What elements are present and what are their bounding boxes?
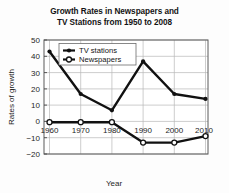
y-axis-title: Rates of growth — [7, 69, 16, 125]
y-tick-label-20: 20 — [31, 85, 40, 94]
x-tick-label-2000: 2000 — [165, 126, 183, 135]
x-tick-label-1970: 1970 — [72, 126, 90, 135]
data-point-tv-1960 — [47, 49, 51, 53]
data-point-newspapers-1990 — [141, 140, 146, 145]
data-point-tv-2000 — [172, 92, 176, 96]
data-point-tv-2010 — [203, 97, 207, 101]
data-point-tv-1970 — [79, 92, 83, 96]
x-axis-title: Year — [106, 179, 123, 188]
y-tick-label-10: 10 — [31, 101, 40, 110]
y-tick-label-neg10: −10 — [26, 134, 40, 143]
chart-figure: Growth Rates in Newspapers and TV Statio… — [0, 0, 229, 193]
y-tick-label-30: 30 — [31, 69, 40, 78]
chart-legend[interactable]: TV stations Newspapers — [59, 44, 136, 66]
legend-label-tv-stations: TV stations — [79, 46, 117, 55]
legend-label-newspapers: Newspapers — [79, 55, 121, 64]
legend-marker-newspapers-dot — [67, 57, 72, 62]
data-point-newspapers-1970 — [78, 120, 83, 125]
legend-marker-tv-stations-dot — [67, 48, 71, 52]
line-chart-plot: 50 40 30 20 10 0 −10 −20 1960 1970 1980 … — [0, 0, 229, 193]
data-point-newspapers-1980 — [109, 120, 114, 125]
data-point-newspapers-2000 — [172, 140, 177, 145]
x-tick-label-1960: 1960 — [41, 126, 59, 135]
y-tick-label-50: 50 — [31, 36, 40, 45]
y-tick-label-neg20: −20 — [26, 150, 40, 159]
y-tick-label-40: 40 — [31, 52, 40, 61]
data-point-newspapers-2010 — [203, 134, 208, 139]
data-point-tv-1990 — [141, 59, 145, 63]
data-point-newspapers-1960 — [47, 120, 52, 125]
data-point-tv-1980 — [110, 108, 114, 112]
x-tick-label-1990: 1990 — [134, 126, 152, 135]
